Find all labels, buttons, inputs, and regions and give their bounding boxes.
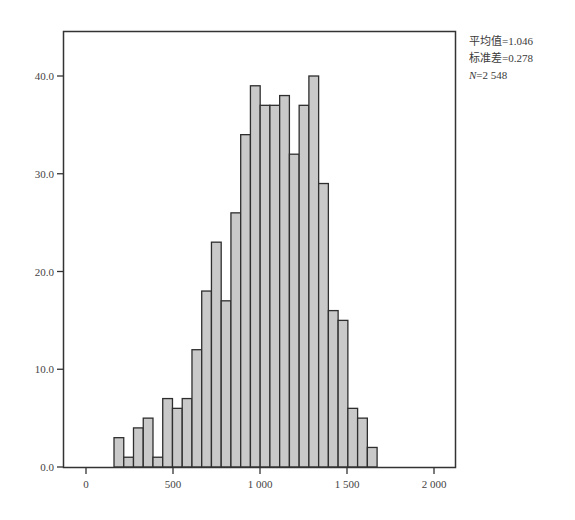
y-tick-label: 40.0 [35, 70, 55, 82]
histogram-bar [134, 428, 144, 467]
x-axis: 05001 0001 5002 000 [83, 468, 447, 491]
histogram-bar [289, 154, 299, 467]
x-tick-label: 0 [83, 478, 89, 490]
histogram-bar [153, 457, 163, 467]
n-label: N=2 548 [469, 67, 533, 84]
histogram-bar [250, 86, 260, 467]
histogram-bar [143, 418, 153, 467]
y-tick-label: 10.0 [35, 363, 55, 375]
histogram-bar [348, 408, 358, 467]
y-axis: 0.010.020.030.040.0 [35, 70, 64, 473]
histogram-bar [114, 438, 124, 467]
histogram-bar [172, 408, 182, 467]
mean-label: 平均值=1.046 [469, 33, 533, 50]
x-tick-label: 2 000 [422, 478, 447, 490]
std-label: 标准差=0.278 [469, 50, 533, 67]
histogram-bar [270, 105, 280, 467]
histogram-bar [338, 320, 348, 467]
histogram-bar [202, 291, 212, 467]
histogram-bar [163, 399, 173, 467]
histogram-bar [319, 184, 329, 467]
n-value: =2 548 [476, 69, 507, 81]
histogram-bar [182, 399, 192, 467]
y-tick-label: 0.0 [40, 461, 54, 473]
x-tick-label: 500 [165, 478, 182, 490]
histogram-bar [299, 105, 309, 467]
summary-statistics: 平均值=1.046 标准差=0.278 N=2 548 [469, 33, 533, 84]
histogram-bar [358, 418, 368, 467]
histogram-bar [309, 76, 319, 467]
histogram-bar [260, 105, 270, 467]
x-tick-label: 1 500 [335, 478, 360, 490]
histogram-bar [241, 135, 251, 467]
histogram-bar [124, 457, 134, 467]
histogram-bar [280, 96, 290, 467]
histogram-bar [231, 213, 241, 467]
x-tick-label: 1 000 [248, 478, 273, 490]
histogram-bars [114, 76, 377, 467]
y-tick-label: 20.0 [35, 266, 55, 278]
histogram-bar [328, 311, 338, 467]
y-tick-label: 30.0 [35, 168, 55, 180]
histogram-bar [367, 447, 377, 467]
histogram-bar [221, 301, 231, 467]
histogram-bar [192, 350, 202, 467]
histogram-bar [211, 242, 221, 467]
